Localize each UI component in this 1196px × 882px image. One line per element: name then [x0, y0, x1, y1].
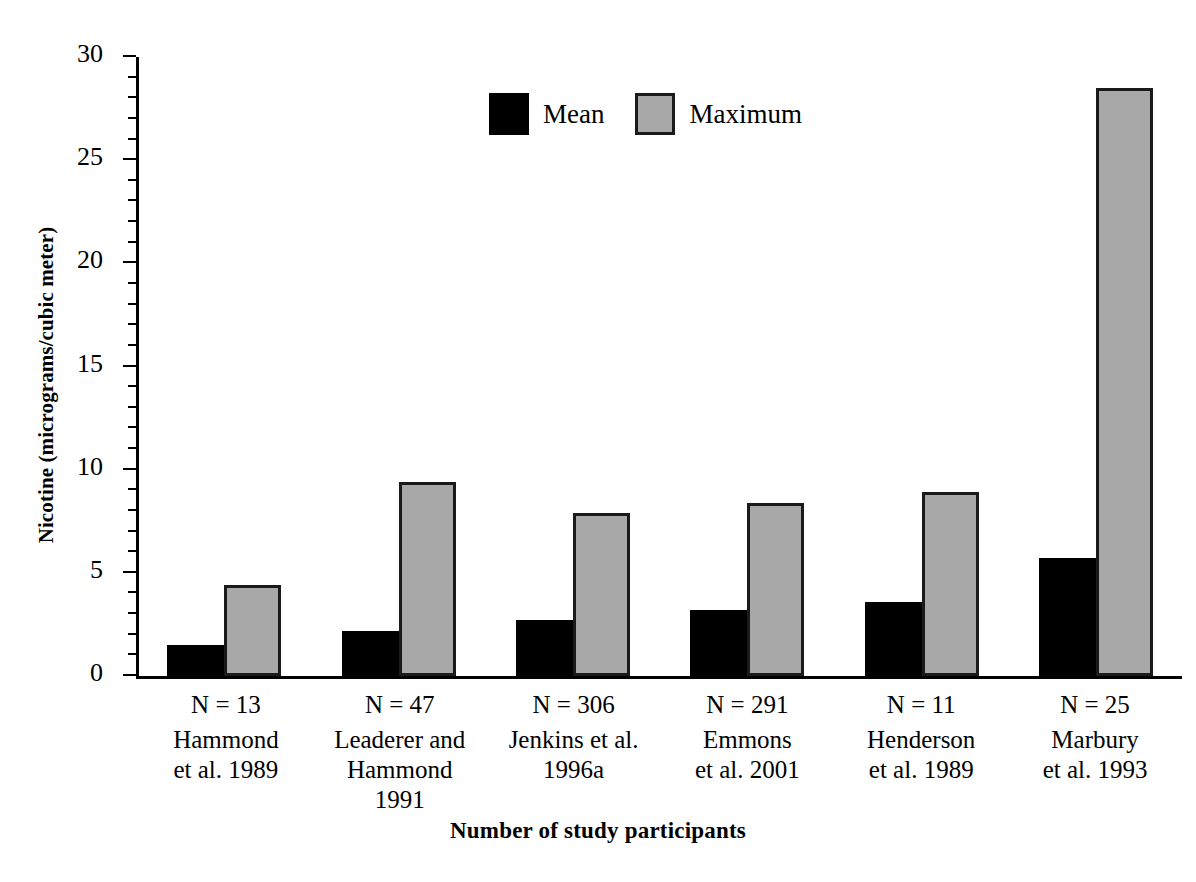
y-tick-minor — [128, 282, 136, 284]
y-tick-label: 30 — [43, 40, 103, 68]
x-category-citation: Marburyet al. 1993 — [1008, 725, 1182, 785]
y-tick-minor — [128, 550, 136, 552]
y-tick-label: 0 — [43, 659, 103, 687]
y-tick-minor — [128, 96, 136, 98]
x-category-citation: Emmonset al. 2001 — [660, 725, 834, 785]
legend-label-maximum: Maximum — [689, 99, 802, 129]
x-category-citation-line: 1996a — [487, 755, 661, 785]
x-category-citation-line: Jenkins et al. — [487, 725, 661, 755]
y-tick-minor — [128, 323, 136, 325]
legend-swatch-maximum-icon — [635, 93, 675, 135]
y-tick-major — [123, 158, 136, 160]
x-category-n-label: N = 291 — [660, 690, 834, 720]
y-tick-minor — [128, 612, 136, 614]
bar-maximum-0 — [224, 585, 281, 676]
y-tick-minor — [128, 406, 136, 408]
y-tick-label: 10 — [43, 453, 103, 481]
x-category-citation-line: 1991 — [313, 785, 487, 815]
bar-maximum-2 — [573, 513, 630, 676]
bar-mean-1 — [342, 631, 399, 676]
bar-maximum-3 — [747, 503, 804, 676]
bar-mean-5 — [1039, 558, 1096, 676]
y-tick-minor — [128, 76, 136, 78]
x-category-5: N = 25Marburyet al. 1993 — [1008, 690, 1182, 815]
nicotine-bar-chart: Nicotine (micrograms/cubic meter) 051015… — [0, 0, 1196, 882]
x-category-citation-line: Hammond — [313, 755, 487, 785]
bar-maximum-4 — [922, 492, 979, 676]
bar-mean-2 — [516, 620, 573, 676]
plot-area: 051015202530 — [136, 57, 1182, 676]
y-tick-minor — [128, 220, 136, 222]
x-category-n-label: N = 25 — [1008, 690, 1182, 720]
x-category-citation-line: Hammond — [139, 725, 313, 755]
x-category-citation: Hammondet al. 1989 — [139, 725, 313, 785]
x-category-n-label: N = 13 — [139, 690, 313, 720]
x-category-citation-line: et al. 1993 — [1008, 755, 1182, 785]
y-tick-minor — [128, 138, 136, 140]
y-tick-minor — [128, 591, 136, 593]
legend-item-mean: Mean — [489, 93, 604, 135]
y-tick-minor — [128, 241, 136, 243]
x-axis-title: Number of study participants — [0, 818, 1196, 844]
legend-swatch-mean-icon — [489, 93, 529, 135]
y-tick-minor — [128, 653, 136, 655]
x-axis-category-labels: N = 13Hammondet al. 1989N = 47Leaderer a… — [139, 690, 1182, 815]
bar-maximum-1 — [399, 482, 456, 676]
y-tick-major — [123, 55, 136, 57]
legend: MeanMaximum — [489, 93, 802, 135]
bar-maximum-5 — [1096, 88, 1153, 676]
x-category-n-label: N = 306 — [487, 690, 661, 720]
y-tick-label: 20 — [43, 246, 103, 274]
y-tick-minor — [128, 447, 136, 449]
x-category-citation-line: Leaderer and — [313, 725, 487, 755]
x-category-citation: Hendersonet al. 1989 — [834, 725, 1008, 785]
y-tick-minor — [128, 633, 136, 635]
y-tick-minor — [128, 509, 136, 511]
y-tick-minor — [128, 426, 136, 428]
y-tick-major — [123, 468, 136, 470]
x-category-citation-line: et al. 1989 — [834, 755, 1008, 785]
x-category-citation-line: Henderson — [834, 725, 1008, 755]
y-tick-label: 5 — [43, 556, 103, 584]
x-category-1: N = 47Leaderer andHammond1991 — [313, 690, 487, 815]
x-category-4: N = 11Hendersonet al. 1989 — [834, 690, 1008, 815]
y-tick-minor — [128, 179, 136, 181]
x-category-0: N = 13Hammondet al. 1989 — [139, 690, 313, 815]
y-tick-major — [123, 261, 136, 263]
legend-item-maximum: Maximum — [635, 93, 802, 135]
y-tick-label: 15 — [43, 350, 103, 378]
bar-mean-4 — [865, 602, 922, 676]
y-tick-minor — [128, 488, 136, 490]
bar-mean-3 — [690, 610, 747, 676]
x-category-2: N = 306Jenkins et al.1996a — [487, 690, 661, 815]
x-category-citation: Jenkins et al.1996a — [487, 725, 661, 785]
y-tick-minor — [128, 303, 136, 305]
x-category-n-label: N = 11 — [834, 690, 1008, 720]
y-tick-minor — [128, 530, 136, 532]
y-tick-major — [123, 571, 136, 573]
x-category-citation-line: Marbury — [1008, 725, 1182, 755]
x-category-citation-line: Emmons — [660, 725, 834, 755]
legend-label-mean: Mean — [543, 99, 604, 129]
x-axis-line — [136, 676, 1182, 679]
y-axis-line — [136, 57, 139, 676]
x-category-citation-line: et al. 1989 — [139, 755, 313, 785]
y-tick-major — [123, 674, 136, 676]
bar-mean-0 — [167, 645, 224, 676]
x-category-n-label: N = 47 — [313, 690, 487, 720]
y-tick-minor — [128, 199, 136, 201]
x-category-citation: Leaderer andHammond1991 — [313, 725, 487, 815]
y-tick-label: 25 — [43, 143, 103, 171]
x-category-citation-line: et al. 2001 — [660, 755, 834, 785]
y-tick-minor — [128, 117, 136, 119]
y-tick-major — [123, 365, 136, 367]
y-tick-minor — [128, 385, 136, 387]
x-category-3: N = 291Emmonset al. 2001 — [660, 690, 834, 815]
y-tick-minor — [128, 344, 136, 346]
